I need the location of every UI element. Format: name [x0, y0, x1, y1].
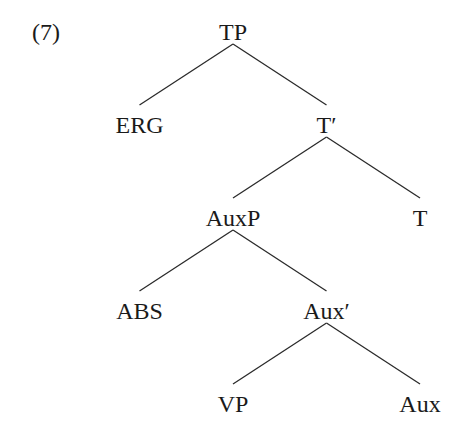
edge-aux-bar-to-vp: [233, 323, 327, 384]
node-erg: ERG: [116, 112, 164, 138]
node-aux-bar: Aux′: [303, 298, 350, 324]
example-number: (7): [32, 19, 60, 45]
edge-auxp-to-abs: [140, 230, 234, 291]
edge-t-bar-to-t: [327, 137, 421, 198]
edge-t-bar-to-auxp: [233, 137, 327, 198]
edge-tp-to-t-bar: [233, 44, 327, 105]
edge-aux-bar-to-aux: [327, 323, 421, 384]
node-tp: TP: [219, 19, 247, 45]
edge-tp-to-erg: [140, 44, 234, 105]
syntax-tree: (7) TPERGT′AuxPABSAux′VPAuxT: [0, 0, 463, 447]
node-abs: ABS: [116, 298, 163, 324]
edge-auxp-to-aux-bar: [233, 230, 327, 291]
node-auxp: AuxP: [206, 205, 261, 231]
tree-nodes: TPERGT′AuxPABSAux′VPAuxT: [116, 19, 441, 417]
tree-edges: [140, 44, 421, 384]
node-t: T: [413, 205, 428, 231]
node-aux: Aux: [399, 391, 440, 417]
node-t-bar: T′: [317, 112, 337, 138]
node-vp: VP: [218, 391, 249, 417]
